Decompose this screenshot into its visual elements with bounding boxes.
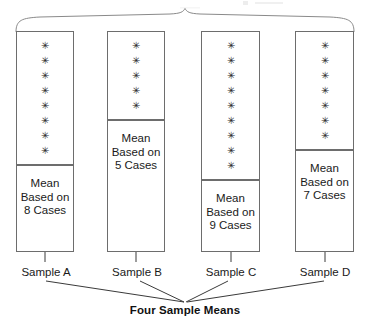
case-asterisk: ✳: [41, 38, 49, 53]
sample-label-a: Sample A: [7, 265, 85, 279]
case-asterisk: ✳: [132, 83, 140, 98]
asterisk-stack-d: ✳ ✳ ✳ ✳ ✳ ✳ ✳: [296, 38, 353, 143]
mean-label-a: Mean Based on 8 Cases: [17, 177, 73, 218]
mean-box-b: Mean Based on 5 Cases: [107, 120, 165, 252]
case-asterisk: ✳: [227, 83, 235, 98]
case-asterisk: ✳: [41, 113, 49, 128]
case-asterisk: ✳: [321, 83, 329, 98]
case-asterisk: ✳: [227, 158, 235, 173]
case-asterisk: ✳: [41, 143, 49, 158]
population-brace-icon: [16, 9, 354, 33]
case-asterisk: ✳: [41, 68, 49, 83]
case-asterisk: ✳: [41, 83, 49, 98]
case-asterisk: ✳: [41, 53, 49, 68]
mean-label-b: Mean Based on 5 Cases: [108, 132, 164, 173]
case-asterisk: ✳: [321, 53, 329, 68]
case-asterisk: ✳: [321, 128, 329, 143]
case-asterisk: ✳: [321, 98, 329, 113]
case-asterisk: ✳: [321, 68, 329, 83]
case-asterisk: ✳: [227, 113, 235, 128]
mean-label-c: Mean Based on 9 Cases: [202, 192, 259, 233]
asterisk-stack-c: ✳ ✳ ✳ ✳ ✳ ✳ ✳ ✳ ✳: [202, 38, 259, 173]
sample-label-c: Sample C: [192, 265, 270, 279]
cases-box-a: ✳ ✳ ✳ ✳ ✳ ✳ ✳ ✳: [16, 31, 74, 165]
case-asterisk: ✳: [227, 143, 235, 158]
case-asterisk: ✳: [227, 98, 235, 113]
mean-tick-lines: [45, 196, 325, 262]
case-asterisk: ✳: [132, 68, 140, 83]
mean-box-d: Mean Based on 7 Cases: [295, 150, 354, 252]
case-asterisk: ✳: [41, 128, 49, 143]
four-sample-means-diagram: ✳ ✳ ✳ ✳ ✳ ✳ ✳ ✳ Mean Based on 8 Cases Sa…: [0, 0, 370, 321]
case-asterisk: ✳: [227, 38, 235, 53]
cases-box-d: ✳ ✳ ✳ ✳ ✳ ✳ ✳: [295, 31, 354, 150]
asterisk-stack-b: ✳ ✳ ✳ ✳ ✳: [108, 38, 164, 113]
mean-label-d: Mean Based on 7 Cases: [296, 162, 353, 203]
case-asterisk: ✳: [132, 98, 140, 113]
case-asterisk: ✳: [227, 53, 235, 68]
case-asterisk: ✳: [132, 53, 140, 68]
sample-label-b: Sample B: [98, 265, 176, 279]
asterisk-stack-a: ✳ ✳ ✳ ✳ ✳ ✳ ✳ ✳: [17, 38, 73, 158]
figure-caption: Four Sample Means: [0, 304, 370, 316]
case-asterisk: ✳: [132, 38, 140, 53]
case-asterisk: ✳: [227, 128, 235, 143]
cases-box-b: ✳ ✳ ✳ ✳ ✳: [107, 31, 165, 120]
case-asterisk: ✳: [321, 38, 329, 53]
mean-box-c: Mean Based on 9 Cases: [201, 180, 260, 252]
cropped-text-artifact: [180, 1, 283, 9]
sample-label-d: Sample D: [286, 265, 364, 279]
case-asterisk: ✳: [41, 98, 49, 113]
mean-box-a: Mean Based on 8 Cases: [16, 165, 74, 252]
case-asterisk: ✳: [227, 68, 235, 83]
cases-box-c: ✳ ✳ ✳ ✳ ✳ ✳ ✳ ✳ ✳: [201, 31, 260, 180]
case-asterisk: ✳: [321, 113, 329, 128]
converging-leader-lines: [46, 281, 324, 302]
